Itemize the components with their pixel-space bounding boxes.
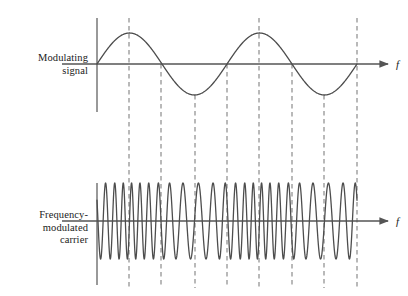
waveform-canvas: f f	[0, 0, 408, 296]
axis-symbol-top: f	[396, 58, 401, 70]
modulating-signal-label: Modulating signal	[4, 52, 88, 77]
fm-carrier-panel: f	[62, 183, 401, 285]
fm-waveform-figure: f f Modulating signal Frequency- modulat…	[0, 0, 408, 296]
axis-symbol-bottom: f	[396, 215, 401, 227]
frequency-modulated-carrier-label: Frequency- modulated carrier	[4, 209, 88, 247]
modulating-signal-panel: f	[62, 18, 401, 112]
